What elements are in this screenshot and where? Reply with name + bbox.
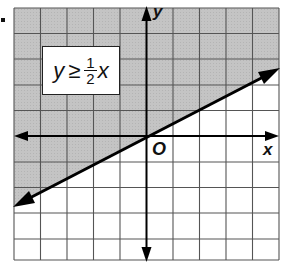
fraction: 1 2 bbox=[84, 55, 96, 86]
inequality-rhs-var: x bbox=[98, 58, 109, 84]
inequality-lhs: y bbox=[53, 58, 64, 84]
coordinate-plane bbox=[0, 0, 281, 267]
x-axis-label: x bbox=[263, 140, 272, 160]
fraction-numerator: 1 bbox=[84, 55, 96, 71]
origin-label: O bbox=[152, 139, 166, 160]
fraction-denominator: 2 bbox=[84, 71, 96, 86]
inequality-operator: ≥ bbox=[68, 58, 80, 84]
y-axis-label: y bbox=[153, 2, 162, 22]
inequality-label: y ≥ 1 2 x bbox=[42, 46, 120, 95]
